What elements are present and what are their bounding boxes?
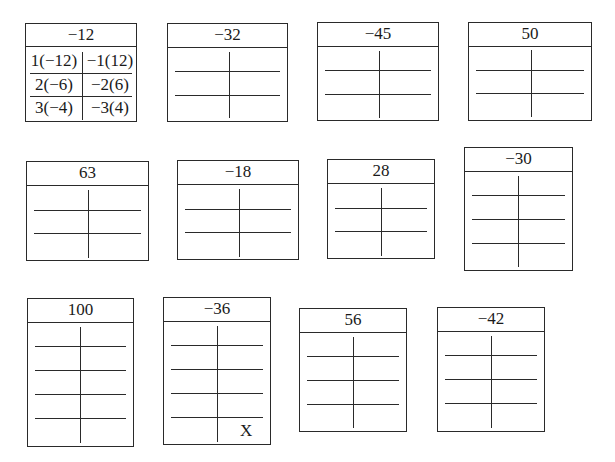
t-table-header: −12	[26, 24, 136, 47]
factor-cell: −3(4)	[83, 97, 137, 119]
t-table-row-line	[185, 209, 291, 210]
t-table-row-line	[171, 369, 263, 370]
t-table-neg36: −36 X	[163, 297, 271, 445]
t-table-divider	[80, 327, 81, 443]
t-table-row-line	[171, 393, 263, 394]
t-table-neg12: −12 1(−12) −1(12) 2(−6) −2(6) 3(−4) −3(4…	[25, 23, 137, 122]
factor-cell: −1(12)	[83, 50, 137, 72]
t-table-row-line	[307, 404, 399, 405]
t-table-row-line	[472, 243, 565, 244]
t-table-56: 56	[299, 308, 407, 432]
t-table-header: −30	[465, 148, 572, 172]
t-table-row-line	[175, 95, 280, 96]
x-mark: X	[240, 421, 252, 441]
t-table-header: 63	[27, 162, 148, 186]
t-table-row-line	[171, 345, 263, 346]
t-table-100: 100	[27, 298, 134, 447]
t-table-header: 50	[469, 23, 591, 47]
t-table-row-line	[35, 418, 126, 419]
t-table-row-line	[335, 231, 427, 232]
t-table-row-line	[472, 195, 565, 196]
t-table-row-line	[445, 379, 537, 380]
t-table-row-line	[34, 233, 141, 234]
t-table-row-line	[35, 346, 126, 347]
t-table-divider	[217, 326, 218, 442]
t-table-neg30: −30	[464, 147, 573, 271]
t-table-divider	[531, 50, 532, 117]
factor-cell: 1(−12)	[26, 50, 82, 72]
t-table-row-line	[445, 355, 537, 356]
t-table-row-line	[175, 71, 280, 72]
t-table-header: −36	[164, 298, 270, 322]
t-table-header: 28	[328, 160, 434, 184]
t-table-header: 100	[28, 299, 133, 323]
t-table-row-line	[476, 70, 584, 71]
t-table-divider	[229, 52, 230, 118]
t-table-63: 63	[26, 161, 149, 261]
t-table-row-line	[35, 370, 126, 371]
t-table-neg42: −42	[437, 307, 545, 432]
factor-cell: 3(−4)	[26, 97, 82, 119]
t-table-divider	[239, 189, 240, 257]
t-table-header: 56	[300, 309, 406, 333]
t-table-neg45: −45	[317, 22, 439, 121]
t-table-row-line	[307, 380, 399, 381]
t-table-divider	[518, 176, 519, 267]
t-table-divider	[353, 337, 354, 428]
t-table-row-line	[325, 70, 431, 71]
t-table-divider	[88, 190, 89, 258]
t-table-row-line	[307, 356, 399, 357]
t-table-neg18: −18	[177, 160, 299, 260]
t-table-28: 28	[327, 159, 435, 259]
factor-cell: −2(6)	[83, 74, 137, 96]
t-table-row-line	[185, 232, 291, 233]
t-table-row-line	[335, 208, 427, 209]
t-table-header: −18	[178, 161, 298, 185]
t-table-row-line	[476, 93, 584, 94]
t-table-row-line	[35, 394, 126, 395]
t-table-row-line	[34, 210, 141, 211]
t-table-divider	[379, 51, 380, 118]
t-table-row-line	[445, 403, 537, 404]
t-table-row-line	[472, 219, 565, 220]
t-table-divider	[381, 188, 382, 256]
t-table-row-line	[325, 94, 431, 95]
t-table-header: −45	[318, 23, 438, 47]
t-table-header: −42	[438, 308, 544, 332]
t-table-50: 50	[468, 22, 592, 121]
t-table-header: −32	[168, 24, 287, 48]
t-table-row-line	[171, 417, 263, 418]
factor-cell: 2(−6)	[26, 74, 82, 96]
t-table-neg32: −32	[167, 23, 288, 122]
t-table-divider	[491, 336, 492, 428]
